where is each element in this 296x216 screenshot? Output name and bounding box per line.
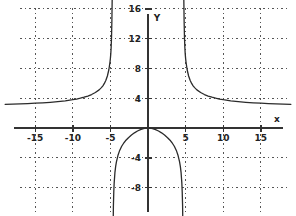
chart-container: -15-10-551015 481216-4-8 x Y xyxy=(0,0,296,216)
x-tick-label-5: 5 xyxy=(182,133,188,143)
y-tick-label-12: 12 xyxy=(128,34,141,44)
x-tick-label-15: 15 xyxy=(255,133,268,143)
x-tick-label--15: -15 xyxy=(27,133,43,143)
rational-function-graph: -15-10-551015 481216-4-8 x Y xyxy=(0,0,296,216)
y-tick-label-8: 8 xyxy=(135,64,141,74)
y-tick-label--4: -4 xyxy=(131,153,141,163)
x-tick-label--5: -5 xyxy=(105,133,115,143)
x-axis-label: x xyxy=(274,114,280,124)
y-tick-label--8: -8 xyxy=(131,183,141,193)
x-tick-label--10: -10 xyxy=(65,133,81,143)
y-tick-label-4: 4 xyxy=(135,94,141,104)
y-tick-label-16: 16 xyxy=(128,4,141,14)
x-tick-label-10: 10 xyxy=(217,133,230,143)
y-axis-label: Y xyxy=(153,13,161,23)
